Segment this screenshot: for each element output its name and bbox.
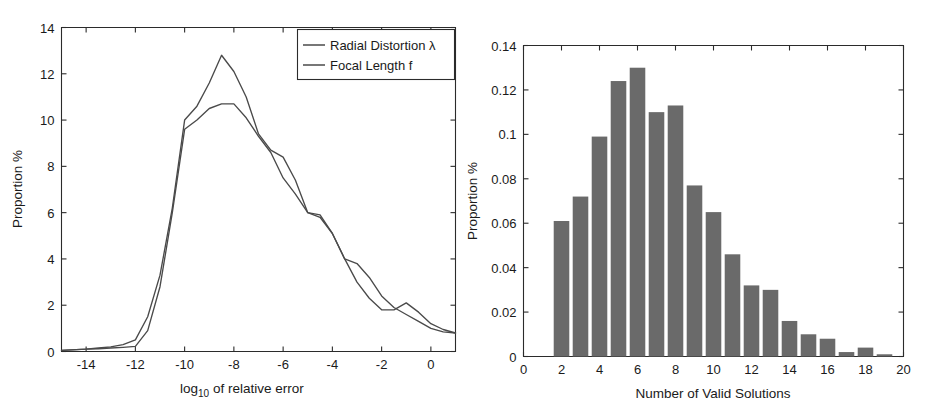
- y-tick-label: 0.04: [491, 261, 516, 276]
- x-tick-label: 10: [706, 362, 720, 377]
- x-tick-label: -10: [175, 357, 194, 372]
- y-tick-label: 2: [47, 298, 54, 313]
- series-line-radial-distortion: [62, 55, 456, 350]
- x-tick-label: 6: [634, 362, 641, 377]
- left-chart-svg: -14-12-10-8-6-4-2002468101214 Proportion…: [0, 0, 460, 417]
- x-tick-label: -6: [277, 357, 289, 372]
- bar: [649, 112, 665, 356]
- bar: [782, 321, 798, 357]
- bar: [820, 339, 836, 357]
- bar: [744, 285, 760, 356]
- bar: [611, 81, 627, 356]
- x-tick-label: 12: [744, 362, 758, 377]
- chart-panel-left: -14-12-10-8-6-4-2002468101214 Proportion…: [0, 0, 460, 417]
- x-tick-label: -4: [327, 357, 339, 372]
- chart-panel-right: 0246810121416182000.020.040.060.080.10.1…: [460, 0, 925, 417]
- left-y-axis-title: Proportion %: [10, 150, 25, 228]
- x-tick-label: 14: [782, 362, 796, 377]
- figure-container: -14-12-10-8-6-4-2002468101214 Proportion…: [0, 0, 925, 417]
- y-tick-label: 0.06: [491, 216, 516, 231]
- bar: [801, 334, 817, 356]
- right-chart-svg: 0246810121416182000.020.040.060.080.10.1…: [460, 0, 925, 417]
- y-tick-label: 8: [47, 159, 54, 174]
- legend-label-radial-distortion: Radial Distortion λ: [330, 38, 436, 53]
- right-x-axis-title: Number of Valid Solutions: [635, 386, 790, 401]
- x-tick-label: -8: [228, 357, 240, 372]
- left-x-axis-title-rest: of relative error: [209, 381, 304, 396]
- x-tick-label: -14: [77, 357, 96, 372]
- x-tick-label: 18: [858, 362, 872, 377]
- svg-text:log10 of relative error: log10 of relative error: [180, 381, 304, 399]
- x-tick-label: 0: [520, 362, 527, 377]
- x-tick-label: 16: [820, 362, 834, 377]
- bar: [706, 212, 722, 356]
- y-tick-label: 14: [40, 21, 54, 36]
- x-tick-label: 0: [427, 357, 434, 372]
- legend-label-focal-length: Focal Length f: [330, 58, 413, 73]
- bar: [725, 254, 741, 356]
- bar: [573, 197, 589, 357]
- bar: [877, 354, 893, 356]
- x-tick-label: -12: [126, 357, 145, 372]
- bar: [630, 68, 646, 357]
- x-tick-label: -2: [376, 357, 388, 372]
- left-x-axis-title-subscript: 10: [198, 388, 210, 399]
- x-tick-label: 4: [596, 362, 603, 377]
- bar: [839, 352, 855, 356]
- x-tick-label: 20: [896, 362, 910, 377]
- x-tick-label: 8: [672, 362, 679, 377]
- bar-group: [554, 68, 893, 357]
- left-chart-legend[interactable]: Radial Distortion λ Focal Length f: [298, 30, 455, 80]
- series-line-focal-length: [62, 104, 456, 350]
- y-tick-label: 10: [40, 113, 54, 128]
- left-x-axis-title-base: log: [180, 381, 198, 396]
- y-tick-label: 0: [47, 345, 54, 360]
- x-tick-label: 2: [558, 362, 565, 377]
- y-tick-label: 4: [47, 252, 54, 267]
- bar: [763, 290, 779, 357]
- bar: [554, 221, 570, 357]
- bar: [592, 137, 608, 357]
- y-tick-label: 0.08: [491, 172, 516, 187]
- y-tick-label: 0.12: [491, 83, 516, 98]
- left-x-axis-title: log10 of relative error: [180, 381, 304, 399]
- y-tick-label: 0: [509, 350, 516, 365]
- y-tick-label: 12: [40, 67, 54, 82]
- right-y-axis-title: Proportion %: [465, 162, 480, 240]
- y-tick-label: 0.1: [498, 127, 516, 142]
- y-tick-label: 0.02: [491, 305, 516, 320]
- bar: [668, 105, 684, 356]
- bar: [687, 185, 703, 356]
- y-tick-label: 0.14: [491, 39, 516, 54]
- bar: [858, 348, 874, 357]
- y-tick-label: 6: [47, 206, 54, 221]
